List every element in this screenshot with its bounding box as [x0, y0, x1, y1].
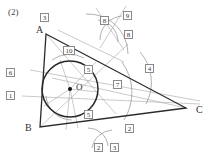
box-label-4: 4	[145, 64, 154, 73]
question-number: (2)	[8, 8, 19, 17]
box-label-3-bottom: 3	[110, 143, 119, 152]
box-label-2-right: 2	[125, 124, 134, 133]
box-label-5-upper: 5	[84, 65, 93, 74]
arc-C-inner	[122, 62, 132, 120]
vertex-label-a: A	[36, 25, 43, 35]
box-label-10: 10	[63, 46, 75, 55]
vertex-label-b: B	[25, 123, 32, 133]
arc-ray-9a	[96, 8, 124, 50]
box-label-7: 7	[113, 80, 122, 89]
arc-C-outer	[140, 52, 151, 104]
box-label-5-lower: 5	[84, 110, 93, 119]
box-label-2-bottom: 2	[94, 143, 103, 152]
angle-bisector-A-ext	[46, 34, 116, 114]
incenter-point	[68, 87, 72, 91]
incenter-label-o: O	[76, 83, 83, 92]
box-label-3-top: 3	[40, 13, 49, 22]
box-label-8-right: 8	[124, 30, 133, 39]
box-label-8-left: 8	[100, 16, 109, 25]
vertex-label-c: C	[196, 105, 203, 115]
radius-right	[70, 89, 98, 92]
box-label-6: 6	[6, 68, 15, 77]
box-label-9: 9	[123, 11, 132, 20]
figure-canvas: (2) A B C O 3 8 9 8 10 6 5 4 1 7 5 2 2 3	[0, 0, 210, 158]
radius-up	[60, 60, 70, 89]
box-label-1: 1	[6, 91, 15, 100]
